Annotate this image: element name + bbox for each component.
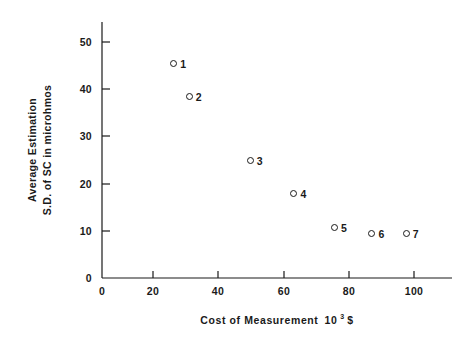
data-point-marker-icon — [290, 190, 297, 197]
x-axis-label-text: Cost of Measurement — [200, 314, 318, 326]
x-axis-label: Cost of Measurement103$ — [102, 313, 452, 326]
data-point-3: 3 — [247, 151, 263, 169]
data-point-6: 6 — [368, 224, 384, 242]
y-tick-label-30: 30 — [62, 130, 92, 142]
data-point-marker-icon — [368, 230, 375, 237]
x-tick-label-80: 80 — [332, 285, 366, 297]
data-point-label: 6 — [378, 228, 384, 240]
y-tick-label-0: 0 — [62, 272, 92, 284]
data-point-4: 4 — [290, 184, 306, 202]
y-tick-label-50: 50 — [62, 36, 92, 48]
data-point-marker-icon — [247, 157, 254, 164]
data-point-label: 3 — [257, 155, 263, 167]
y-axis-label: Average Estimation S.D. of SC in microhm… — [16, 0, 64, 300]
y-tick-label-20: 20 — [62, 178, 92, 190]
data-point-label: 7 — [413, 228, 419, 240]
data-point-5: 5 — [331, 218, 347, 236]
y-axis-label-line-2: S.D. of SC in microhmos — [40, 85, 55, 216]
x-tick-label-60: 60 — [267, 285, 301, 297]
x-tick-label-20: 20 — [136, 285, 170, 297]
scatter-chart-figure: Average Estimation S.D. of SC in microhm… — [0, 0, 474, 345]
data-point-1: 1 — [170, 54, 186, 72]
data-point-label: 1 — [180, 58, 186, 70]
x-tick-label-0: 0 — [85, 285, 119, 297]
data-point-marker-icon — [331, 224, 338, 231]
x-axis-label-exponent: 3 — [340, 313, 344, 320]
data-point-marker-icon — [170, 60, 177, 67]
x-axis-label-currency: $ — [347, 314, 353, 326]
x-axis-label-base: 10 — [324, 314, 337, 326]
data-point-marker-icon — [403, 230, 410, 237]
data-point-label: 4 — [300, 188, 306, 200]
x-tick-label-40: 40 — [201, 285, 235, 297]
data-point-label: 2 — [196, 91, 202, 103]
data-point-marker-icon — [186, 93, 193, 100]
data-point-2: 2 — [186, 87, 202, 105]
y-tick-label-40: 40 — [62, 83, 92, 95]
y-axis-label-line-1: Average Estimation — [25, 85, 40, 216]
data-point-7: 7 — [403, 224, 419, 242]
data-point-label: 5 — [341, 222, 347, 234]
y-tick-label-10: 10 — [62, 225, 92, 237]
x-tick-label-100: 100 — [397, 285, 431, 297]
